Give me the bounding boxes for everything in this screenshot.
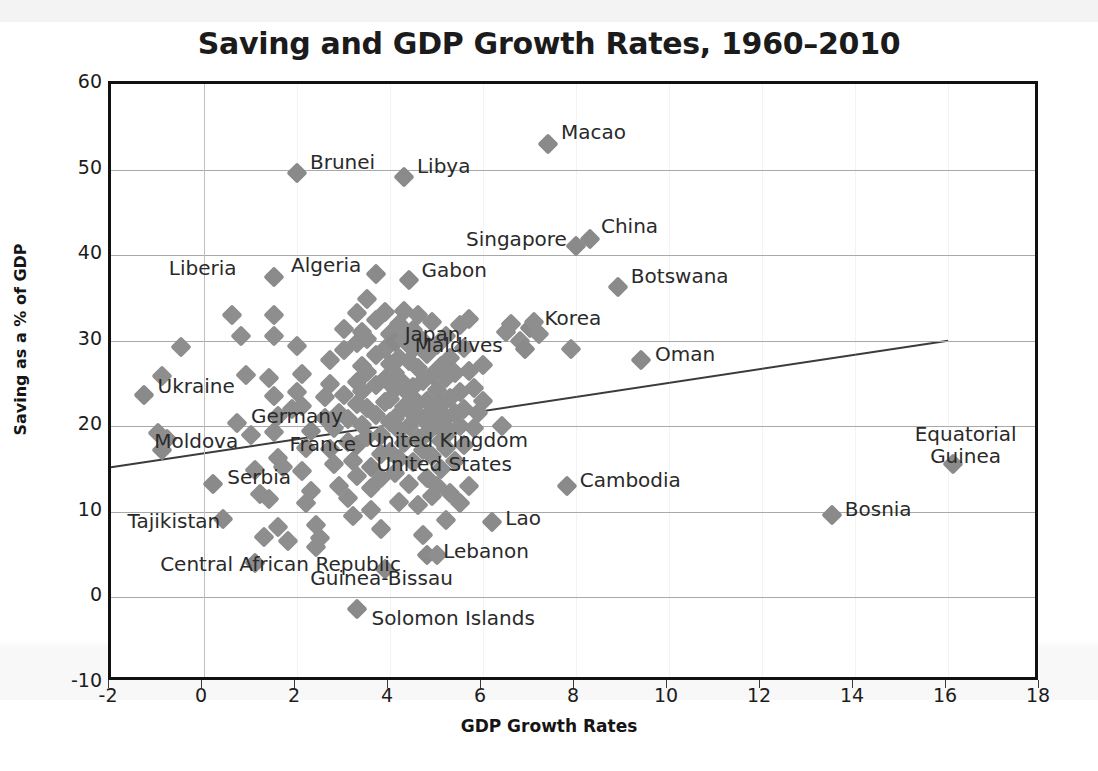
x-axis-tick-label: 14	[840, 684, 864, 706]
scatter-point-label: Macao	[561, 122, 626, 144]
scatter-point-label: Solomon Islands	[371, 608, 534, 630]
scatter-point-label: Gabon	[422, 260, 487, 282]
y-axis-title: Saving as a % of GDP	[11, 190, 30, 490]
scatter-point-label: Moldova	[154, 431, 238, 453]
x-axis-tick-label: 10	[654, 684, 678, 706]
scatter-point-label: Oman	[655, 344, 715, 366]
scatter-point-label: Botswana	[631, 266, 729, 288]
y-axis-tick-label: 10	[58, 498, 102, 520]
x-axis-tick-label: 8	[567, 684, 579, 706]
scatter-point-label: Brunei	[310, 152, 375, 174]
plot-area: MacaoBruneiLibyaChinaSingaporeBotswanaLi…	[108, 81, 1038, 680]
gridline-vertical	[576, 84, 577, 677]
gridline-vertical	[762, 84, 763, 677]
scatter-point-label: Guinea-Bissau	[310, 568, 453, 590]
gridline-vertical	[855, 84, 856, 677]
gridline-vertical	[483, 84, 484, 677]
y-axis-tick-label: 60	[58, 70, 102, 92]
chart-title: Saving and GDP Growth Rates, 1960–2010	[0, 26, 1098, 61]
scatter-point-label: Korea	[545, 308, 602, 330]
y-axis-tick-label: 40	[58, 241, 102, 263]
scatter-point-label: Germany	[251, 406, 343, 428]
scatter-point-label: Libya	[417, 156, 471, 178]
scatter-point-label: EquatorialGuinea	[915, 423, 1017, 468]
x-axis-tick-label: 4	[381, 684, 393, 706]
scatter-point-label: United States	[376, 454, 511, 476]
chart-figure: Saving and GDP Growth Rates, 1960–2010 -…	[0, 0, 1098, 771]
scatter-point-label: Algeria	[291, 255, 361, 277]
scatter-point-label: Serbia	[227, 467, 291, 489]
scatter-point-label: France	[290, 434, 357, 456]
x-axis-tick-label: 6	[474, 684, 486, 706]
y-axis-tick-label: 50	[58, 156, 102, 178]
scatter-point-label: Tajikistan	[128, 511, 221, 533]
x-axis-tick-label: 18	[1026, 684, 1050, 706]
scatter-point-label: United Kingdom	[367, 430, 528, 452]
scatter-point-label: Maldives	[415, 335, 503, 357]
y-axis-tick-label: -10	[58, 669, 102, 691]
x-axis-tick-label: 2	[288, 684, 300, 706]
x-axis-tick-labels: -2024681012141618	[108, 684, 1038, 716]
scatter-point-label: Lao	[505, 508, 541, 530]
scatter-point-label: Ukraine	[158, 376, 235, 398]
y-axis-tick-label: 20	[58, 412, 102, 434]
scatter-point-label: Liberia	[169, 258, 237, 280]
y-axis-tick-labels: -100102030405060	[52, 81, 102, 680]
x-axis-tick-label: 16	[933, 684, 957, 706]
scatter-point-label: Lebanon	[443, 541, 529, 563]
x-axis-tick-label: -2	[99, 684, 118, 706]
y-axis-tick-label: 0	[58, 583, 102, 605]
scatter-point-label: Bosnia	[845, 499, 912, 521]
x-axis-tick-label: 12	[747, 684, 771, 706]
scatter-point-label: Cambodia	[580, 470, 681, 492]
gridline-horizontal	[111, 597, 1035, 598]
scatter-point-label: China	[601, 216, 658, 238]
x-axis-tick-label: 0	[195, 684, 207, 706]
scatter-point-label: Singapore	[466, 229, 567, 251]
gridline-horizontal	[111, 170, 1035, 171]
y-axis-tick-label: 30	[58, 327, 102, 349]
gridline-horizontal	[111, 255, 1035, 256]
x-axis-title: GDP Growth Rates	[0, 716, 1098, 736]
gridline-vertical	[948, 84, 949, 677]
gridline-vertical	[669, 84, 670, 677]
